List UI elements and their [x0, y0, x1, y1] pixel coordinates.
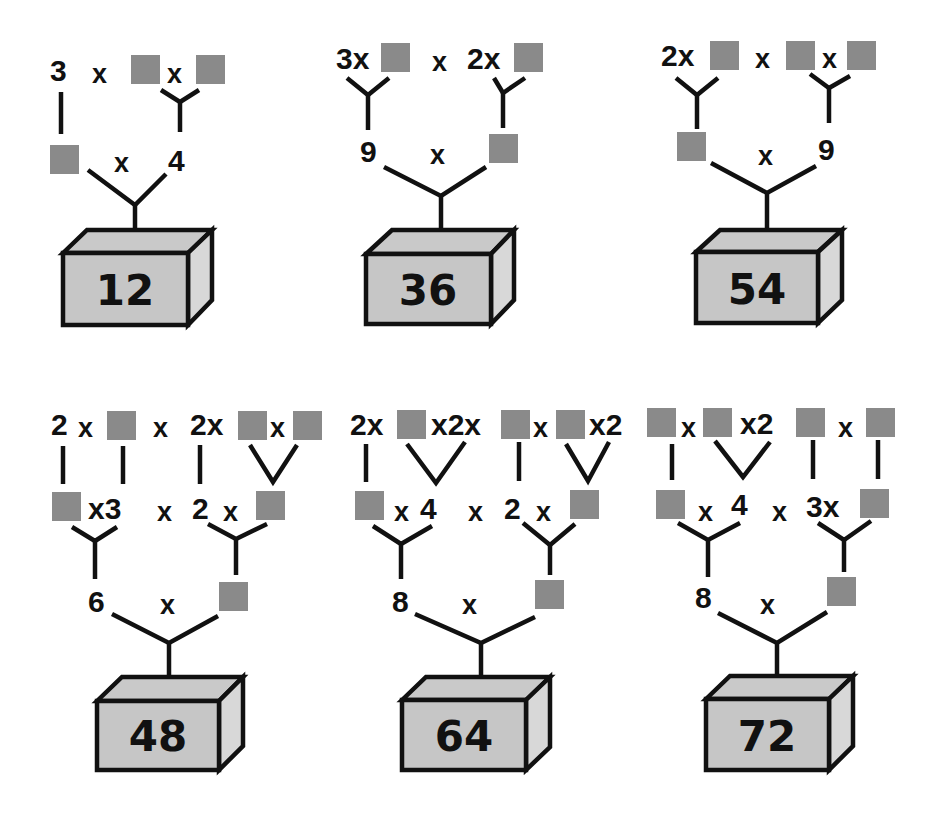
- product-12: 12: [96, 266, 154, 315]
- product-54: 54: [728, 265, 786, 314]
- product-boxes: 12 36 54 48 64 72: [0, 0, 934, 824]
- product-48: 48: [129, 712, 187, 761]
- product-64: 64: [435, 712, 493, 761]
- product-36: 36: [399, 266, 457, 315]
- product-72: 72: [738, 712, 796, 761]
